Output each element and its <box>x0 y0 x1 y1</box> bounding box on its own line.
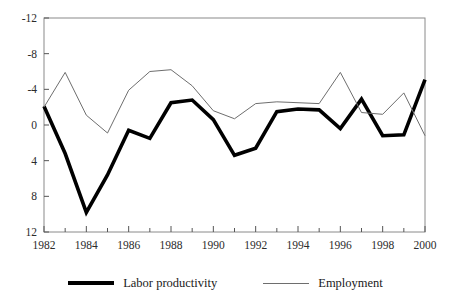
legend-label-labor-productivity: Labor productivity <box>123 277 217 290</box>
legend-item-labor-productivity: Labor productivity <box>68 277 217 290</box>
x-axis-tick-label: 1986 <box>117 239 140 251</box>
legend-label-employment: Employment <box>318 277 383 290</box>
y-axis-tick-label: -4 <box>27 83 37 95</box>
series-line-employment <box>44 70 425 136</box>
legend-swatch-employment <box>263 283 309 284</box>
y-axis-tick-label: 4 <box>31 155 37 167</box>
x-axis-tick-label: 1998 <box>371 239 394 251</box>
legend-item-employment: Employment <box>263 277 383 290</box>
chart-figure: 12840-4-8-121982198419861988199019921994… <box>0 0 451 307</box>
x-axis-tick-label: 1990 <box>202 239 225 251</box>
series-line-labor-productivity <box>44 80 425 213</box>
x-axis-tick-label: 1982 <box>33 239 56 251</box>
plot-frame <box>44 18 425 232</box>
x-axis-tick-label: 2000 <box>414 239 437 251</box>
x-axis-tick-label: 1988 <box>160 239 183 251</box>
y-axis-tick-label: -8 <box>27 48 37 60</box>
y-axis-tick-label: 0 <box>31 119 37 131</box>
legend-swatch-labor-productivity <box>68 281 114 285</box>
x-axis-tick-label: 1992 <box>244 239 267 251</box>
line-chart-canvas: 12840-4-8-121982198419861988199019921994… <box>0 0 451 307</box>
y-axis-tick-label: 8 <box>31 190 37 202</box>
x-axis-tick-label: 1984 <box>75 239 98 251</box>
x-axis-tick-label: 1994 <box>287 239 310 251</box>
y-axis-tick-label: -12 <box>22 12 38 24</box>
x-axis-tick-label: 1996 <box>329 239 352 251</box>
y-axis-tick-label: 12 <box>26 226 38 238</box>
chart-legend: Labor productivity Employment <box>0 268 451 298</box>
